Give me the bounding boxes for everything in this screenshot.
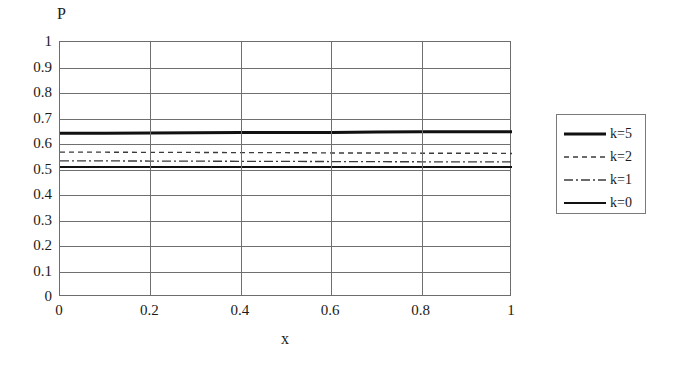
- y-tick-label: 0.9: [6, 59, 52, 74]
- gridline-horizontal: [60, 68, 510, 69]
- x-axis-title: x: [59, 330, 511, 348]
- legend-item-label: k=2: [610, 150, 632, 164]
- gridline-horizontal: [60, 246, 510, 247]
- legend-item-label: k=1: [610, 173, 632, 187]
- y-axis-tick-labels: 10.90.80.70.60.50.40.30.20.10: [0, 41, 52, 296]
- gridline-horizontal: [60, 170, 510, 171]
- y-tick-label: 0.8: [6, 85, 52, 100]
- x-axis-tick-labels: 00.20.40.60.81: [59, 303, 511, 323]
- gridline-horizontal: [60, 144, 510, 145]
- legend-item[interactable]: k=1: [557, 167, 645, 192]
- y-axis-title: P: [57, 5, 66, 23]
- gridline-horizontal: [60, 119, 510, 120]
- legend-line-swatch: [563, 127, 607, 141]
- y-tick-label: 0.7: [6, 110, 52, 125]
- figure-canvas: · · · · · · · · · · · · · · · · · · P 10…: [0, 0, 687, 365]
- y-tick-label: 0.5: [6, 161, 52, 176]
- legend-item[interactable]: k=5: [557, 121, 645, 146]
- legend-item-label: k=0: [610, 196, 632, 210]
- x-tick-label: 0: [39, 303, 79, 318]
- plot-area: [59, 41, 511, 296]
- x-tick-label: 0.4: [220, 303, 260, 318]
- gridline-vertical: [331, 42, 332, 295]
- y-tick-label: 0.4: [6, 187, 52, 202]
- legend-line-swatch: [563, 196, 607, 210]
- y-tick-label: 0.3: [6, 212, 52, 227]
- gridline-vertical: [150, 42, 151, 295]
- gridline-horizontal: [60, 195, 510, 196]
- y-tick-label: 0.1: [6, 263, 52, 278]
- gridline-vertical: [422, 42, 423, 295]
- series-line: [60, 161, 512, 162]
- legend-item[interactable]: k=0: [557, 190, 645, 215]
- legend-item-label: k=5: [610, 127, 632, 141]
- x-tick-label: 0.6: [310, 303, 350, 318]
- cropped-caption-sliver: · · · · · · · · · · · · · · · · · ·: [0, 0, 687, 5]
- x-tick-label: 0.8: [401, 303, 441, 318]
- y-tick-label: 0.6: [6, 136, 52, 151]
- x-tick-label: 1: [491, 303, 531, 318]
- gridline-horizontal: [60, 93, 510, 94]
- y-tick-label: 1: [6, 34, 52, 49]
- legend-item[interactable]: k=2: [557, 144, 645, 169]
- gridline-vertical: [241, 42, 242, 295]
- x-tick-label: 0.2: [129, 303, 169, 318]
- y-tick-label: 0: [6, 289, 52, 304]
- gridline-horizontal: [60, 221, 510, 222]
- series-line: [60, 132, 512, 134]
- legend-line-swatch: [563, 150, 607, 164]
- legend-box: k=5k=2k=1k=0: [556, 114, 646, 214]
- legend-line-swatch: [563, 173, 607, 187]
- series-line: [60, 152, 512, 153]
- gridline-horizontal: [60, 272, 510, 273]
- y-tick-label: 0.2: [6, 238, 52, 253]
